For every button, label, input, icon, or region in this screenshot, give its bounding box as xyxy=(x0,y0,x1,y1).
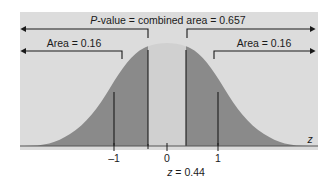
area-left-label: Area = 0.16 xyxy=(47,37,102,49)
tick-label-neg1: –1 xyxy=(108,152,120,164)
pvalue-label-rest: -value = combined area = 0.657 xyxy=(97,14,245,26)
tick-label-zero: 0 xyxy=(164,152,170,164)
x-axis-label: z xyxy=(306,133,313,145)
area-right-label: Area = 0.16 xyxy=(237,37,292,49)
tick-label-pos1: 1 xyxy=(215,152,221,164)
pvalue-label: P-value = combined area = 0.657 xyxy=(90,14,245,26)
normal-distribution-figure: P-value = combined area = 0.657 Area = 0… xyxy=(0,0,336,182)
z-statistic-label: z = 0.44 xyxy=(166,166,205,178)
z-statistic-annotation: z = 0.44 xyxy=(166,166,205,178)
z-statistic-label-rest: = 0.44 xyxy=(172,166,205,178)
pvalue-label-italic-p: P xyxy=(90,14,97,26)
